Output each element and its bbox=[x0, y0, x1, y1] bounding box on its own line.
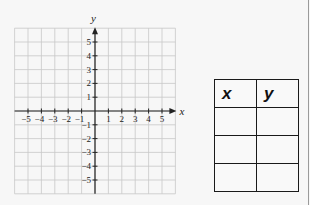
x-tick-label: −3 bbox=[48, 114, 58, 124]
table-header-row: x y bbox=[215, 80, 299, 108]
x-axis-label: x bbox=[178, 105, 184, 117]
cell-y[interactable] bbox=[257, 164, 299, 192]
x-tick-label: −4 bbox=[35, 114, 45, 124]
x-tick-label: 2 bbox=[120, 114, 125, 124]
cell-y[interactable] bbox=[257, 108, 299, 136]
cell-x[interactable] bbox=[215, 136, 257, 164]
x-tick-label: 3 bbox=[133, 114, 138, 124]
axes bbox=[15, 27, 177, 194]
table-row bbox=[215, 136, 299, 164]
y-tick-label: 5 bbox=[87, 37, 92, 47]
y-tick-label: 4 bbox=[87, 51, 92, 61]
y-tick-label: −5 bbox=[81, 175, 91, 185]
table-row bbox=[215, 164, 299, 192]
x-tick-label: 5 bbox=[160, 114, 165, 124]
table-row bbox=[215, 108, 299, 136]
y-tick-label: 1 bbox=[87, 92, 92, 102]
y-tick-label: 3 bbox=[87, 65, 92, 75]
xy-value-table: x y bbox=[214, 79, 299, 192]
header-x: x bbox=[215, 80, 257, 108]
coordinate-plane: −5−4−3−2−11234554321−1−2−3−4−5 x y bbox=[0, 0, 200, 205]
y-tick-label: −2 bbox=[81, 134, 91, 144]
y-tick-label: −1 bbox=[81, 120, 91, 130]
x-tick-label: 4 bbox=[146, 114, 151, 124]
x-tick-label: 1 bbox=[106, 114, 111, 124]
y-tick-label: 2 bbox=[87, 78, 92, 88]
cell-x[interactable] bbox=[215, 108, 257, 136]
cell-y[interactable] bbox=[257, 136, 299, 164]
y-tick-label: −3 bbox=[81, 147, 91, 157]
x-tick-label: −5 bbox=[21, 114, 31, 124]
cell-x[interactable] bbox=[215, 164, 257, 192]
y-tick-label: −4 bbox=[81, 161, 91, 171]
x-tick-label: −2 bbox=[61, 114, 71, 124]
header-y: y bbox=[257, 80, 299, 108]
page-edge-divider bbox=[308, 0, 309, 205]
y-axis-label: y bbox=[90, 12, 96, 24]
